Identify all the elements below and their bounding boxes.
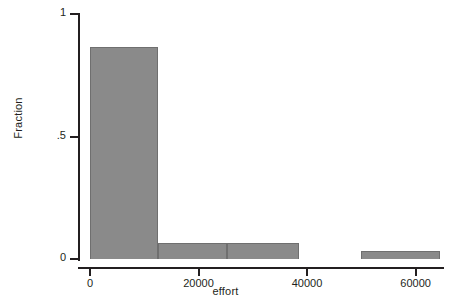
y-tick-mark [70, 13, 78, 15]
x-tick-mark [306, 269, 308, 276]
plot-area [0, 0, 451, 303]
histogram-bar [227, 243, 299, 259]
x-tick-mark [198, 269, 200, 276]
y-axis-line [78, 13, 80, 261]
histogram-bar [90, 47, 158, 259]
y-tick-mark [70, 258, 78, 260]
x-tick-mark [415, 269, 417, 276]
y-tick-mark [70, 136, 78, 138]
histogram-chart: 0.51 0200004000060000 Fraction effort [0, 0, 451, 303]
x-tick-mark [89, 269, 91, 276]
x-axis-line [78, 267, 444, 269]
y-axis-label: Fraction [12, 78, 24, 158]
histogram-bar [158, 243, 227, 259]
histogram-bar [361, 251, 440, 259]
x-axis-label: effort [0, 285, 451, 297]
y-tick-label: 0 [40, 251, 66, 263]
y-tick-label: .5 [40, 129, 66, 141]
y-tick-label: 1 [40, 6, 66, 18]
